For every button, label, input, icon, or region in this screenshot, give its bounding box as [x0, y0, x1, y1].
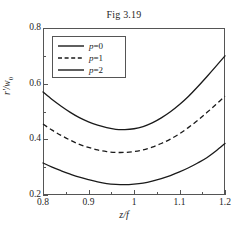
x-tick-label: 1.2 [208, 197, 242, 207]
y-tick-label: 0.8 [0, 22, 41, 32]
legend-item-p2[interactable]: p=2 [57, 64, 121, 76]
y-axis-title-sub: 0 [7, 77, 15, 81]
x-minor-tick-mark [66, 192, 67, 195]
figure-container: Fig 3.19 0.20.40.60.8 0.80.911.11.2 r'/w… [0, 0, 248, 227]
x-tick-mark [43, 190, 44, 195]
series-p0-path-group [43, 144, 225, 185]
series-p1-path-group [43, 96, 225, 152]
legend-label-p2-eq: =2 [94, 65, 104, 75]
y-minor-tick-mark [43, 112, 46, 113]
figure-title: Fig 3.19 [0, 9, 248, 20]
legend-swatch-solid-icon-2 [57, 65, 85, 75]
x-minor-tick-mark [157, 192, 158, 195]
x-axis-title: z/f [0, 209, 248, 220]
legend-label-p1-eq: =1 [94, 53, 104, 63]
y-minor-tick-mark [43, 56, 46, 57]
x-tick-mark [134, 190, 135, 195]
legend-item-p0[interactable]: p=0 [57, 40, 121, 52]
y-minor-tick-mark [43, 167, 46, 168]
x-tick-mark [180, 190, 181, 195]
legend-item-p1[interactable]: p=1 [57, 52, 121, 64]
x-minor-tick-mark [111, 192, 112, 195]
y-tick-mark [43, 195, 48, 196]
legend-label-p0-eq: =0 [94, 41, 104, 51]
y-axis-title: r'/w0 [2, 77, 15, 95]
x-minor-tick-mark [202, 192, 203, 195]
y-tick-mark [43, 139, 48, 140]
x-tick-label: 0.8 [26, 197, 60, 207]
x-tick-label: 1 [117, 197, 151, 207]
legend-swatch-solid-icon [57, 41, 85, 51]
y-tick-mark [43, 28, 48, 29]
series-line-p1 [43, 96, 225, 152]
x-tick-mark [225, 190, 226, 195]
y-tick-label: 0.4 [0, 133, 41, 143]
legend-swatch-dashed-icon [57, 53, 85, 63]
legend-box: p=0 p=1 p=2 [52, 36, 126, 78]
x-tick-label: 0.9 [72, 197, 106, 207]
y-tick-mark [43, 84, 48, 85]
series-line-p0 [43, 144, 225, 185]
y-axis-title-main: r'/w [2, 80, 12, 95]
legend-label-p2: p=2 [85, 65, 103, 75]
x-tick-mark [89, 190, 90, 195]
legend-label-p0: p=0 [85, 41, 103, 51]
legend-label-p1: p=1 [85, 53, 103, 63]
x-tick-label: 1.1 [163, 197, 197, 207]
